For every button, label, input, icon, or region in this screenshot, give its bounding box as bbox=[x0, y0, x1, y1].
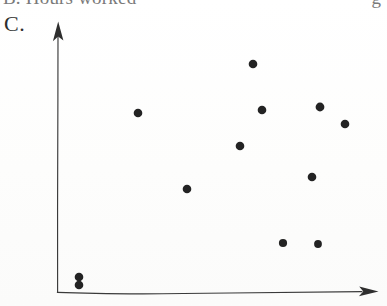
data-point bbox=[341, 120, 350, 129]
data-point-group bbox=[75, 60, 350, 290]
data-point bbox=[134, 109, 143, 118]
scatter-plot bbox=[0, 0, 387, 306]
data-point bbox=[75, 281, 84, 290]
data-point bbox=[236, 142, 245, 151]
scanned-page: B. Hours worked g C. bbox=[0, 0, 387, 306]
data-point bbox=[316, 103, 325, 112]
data-point bbox=[279, 239, 287, 247]
x-axis-line bbox=[57, 292, 362, 294]
data-point bbox=[75, 273, 84, 282]
data-point bbox=[183, 185, 192, 194]
data-point bbox=[249, 60, 258, 69]
y-axis-line bbox=[57, 32, 58, 292]
data-point bbox=[258, 106, 267, 115]
data-point bbox=[308, 173, 317, 182]
data-point bbox=[314, 240, 322, 248]
